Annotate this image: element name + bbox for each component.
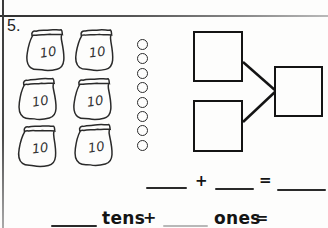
ten-bag: 10 (73, 26, 118, 73)
one-counter-circle (137, 68, 148, 79)
ten-bag: 10 (16, 75, 61, 122)
one-counter-circle (137, 97, 148, 108)
ten-bag: 10 (24, 26, 68, 72)
math-worksheet-problem: 5. 10 10 10 (0, 0, 328, 228)
svg-text:10: 10 (39, 43, 57, 60)
plus-sign-place-value: + (143, 208, 157, 227)
one-counter-circle (137, 140, 148, 151)
ones-circles-group (137, 39, 148, 151)
number-bond-box-tens[interactable] (193, 31, 243, 82)
addend-ones-blank[interactable] (215, 188, 254, 190)
equals-sign-place-value: = (255, 208, 269, 227)
one-counter-circle (137, 39, 148, 50)
tens-bags-group: 10 10 10 10 (0, 0, 130, 180)
svg-text:10: 10 (88, 44, 106, 61)
sum-blank[interactable] (277, 189, 326, 191)
svg-text:10: 10 (86, 92, 104, 109)
svg-text:10: 10 (87, 138, 106, 155)
ten-bag: 10 (15, 121, 60, 168)
ones-count-blank[interactable] (163, 225, 208, 227)
plus-sign: + (195, 172, 208, 190)
one-counter-circle (137, 125, 148, 136)
one-counter-circle (137, 111, 148, 122)
one-counter-circle (137, 53, 148, 64)
equals-sign: = (259, 171, 272, 189)
ten-bag: 10 (71, 75, 115, 121)
ten-bag: 10 (72, 121, 117, 168)
number-bond-box-ones[interactable] (193, 100, 243, 152)
number-bond-box-total[interactable] (274, 66, 323, 117)
svg-text:10: 10 (31, 140, 49, 157)
addend-tens-blank[interactable] (146, 187, 187, 189)
tens-count-blank[interactable] (51, 225, 97, 227)
one-counter-circle (137, 82, 148, 93)
tens-label: tens (102, 208, 145, 228)
ones-label: ones (214, 208, 261, 228)
svg-text:10: 10 (31, 92, 50, 109)
